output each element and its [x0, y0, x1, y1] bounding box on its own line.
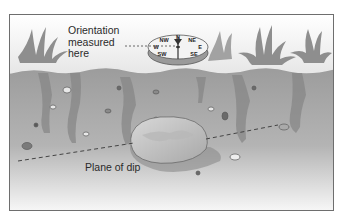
svg-text:SE: SE: [190, 51, 198, 57]
diagram-frame: N NW NE W E SW SE Orientation measured h…: [9, 14, 334, 211]
svg-text:W: W: [153, 44, 159, 50]
svg-text:N: N: [176, 34, 180, 40]
plane-of-dip-label: Plane of dip: [85, 162, 140, 174]
compass: N NW NE W E SW SE: [148, 34, 208, 65]
orientation-label: Orientation measured here: [68, 25, 138, 60]
svg-text:E: E: [198, 44, 202, 50]
svg-text:SW: SW: [158, 51, 168, 57]
rock: [131, 117, 208, 164]
geology-illustration: N NW NE W E SW SE: [10, 15, 333, 210]
svg-text:NE: NE: [188, 37, 196, 43]
orientation-label-line1: Orientation: [68, 25, 138, 37]
orientation-label-line3: here: [68, 48, 138, 60]
svg-text:NW: NW: [159, 37, 169, 43]
